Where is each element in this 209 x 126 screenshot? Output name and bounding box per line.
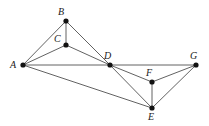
- graph-canvas: [0, 0, 209, 126]
- graph-vertex-a: [20, 62, 25, 67]
- vertices-layer: [20, 18, 198, 110]
- graph-figure: ABCDEFG: [0, 0, 209, 126]
- graph-edge-a-e: [23, 65, 152, 108]
- graph-vertex-e: [149, 105, 154, 110]
- vertex-label-g: G: [190, 51, 197, 61]
- graph-edge-f-g: [152, 65, 196, 82]
- vertex-label-f: F: [146, 68, 152, 78]
- graph-vertex-f: [149, 79, 154, 84]
- graph-edge-a-c: [23, 45, 66, 65]
- graph-vertex-g: [193, 62, 198, 67]
- graph-edge-e-g: [152, 65, 196, 108]
- vertex-label-c: C: [54, 34, 61, 44]
- graph-vertex-b: [63, 18, 68, 23]
- vertex-label-a: A: [10, 60, 16, 70]
- vertex-label-e: E: [148, 112, 154, 122]
- graph-vertex-c: [63, 42, 68, 47]
- vertex-label-b: B: [58, 7, 64, 17]
- graph-vertex-d: [107, 62, 112, 67]
- vertex-label-d: D: [104, 51, 111, 61]
